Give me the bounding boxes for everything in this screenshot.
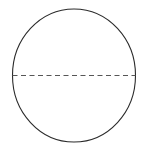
- geometry-figure-svg: [0, 0, 146, 149]
- figure-canvas: [0, 0, 146, 149]
- figure-background: [0, 0, 146, 149]
